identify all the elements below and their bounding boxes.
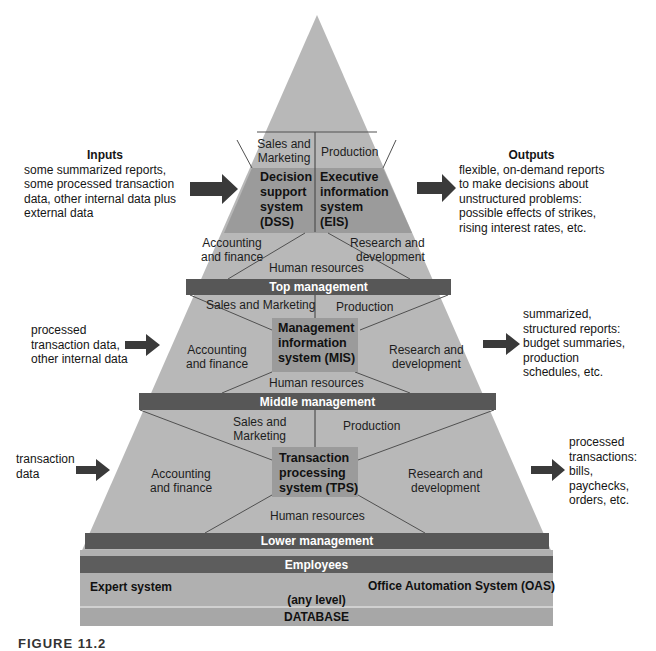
arrow-mid-out (483, 333, 520, 355)
arrow-low-in (76, 459, 110, 481)
figure-caption: FIGURE 11.2 (18, 636, 106, 651)
dss-label: Decision support system (DSS) (260, 170, 312, 230)
mid-inputs: processed transaction data, other intern… (31, 323, 128, 367)
arrow-top-in (190, 174, 238, 204)
eis-label: Executive information system (EIS) (320, 170, 389, 230)
tps-label: Transaction processing system (TPS) (279, 451, 358, 496)
expert-system-label: Expert system (90, 580, 172, 594)
mid-production-label: Production (336, 300, 393, 314)
top-inputs: Inputs some summarized reports, some pro… (24, 148, 186, 221)
top-sales-label: Sales and Marketing (253, 137, 315, 165)
arrow-low-out (531, 459, 565, 481)
arrow-mid-in (125, 334, 160, 356)
oas-label: Office Automation System (OAS) (368, 579, 555, 593)
mid-research-label: Research and development (389, 343, 464, 371)
top-outputs: Outputs flexible, on-demand reports to m… (459, 148, 604, 235)
low-hr-label: Human resources (270, 509, 365, 523)
arrow-top-out (417, 174, 456, 202)
mid-outputs: summarized, structured reports: budget s… (523, 307, 625, 380)
top-management-label: Top management (186, 279, 451, 295)
database-label: DATABASE (80, 610, 553, 624)
top-accounting-label: Accounting and finance (201, 236, 263, 264)
mid-hr-label: Human resources (269, 376, 364, 390)
middle-management-label: Middle management (139, 394, 496, 410)
low-inputs: transaction data (16, 452, 75, 481)
top-hr-label: Human resources (269, 261, 364, 275)
top-production-label: Production (321, 145, 378, 159)
any-level-label: (any level) (80, 593, 553, 607)
mid-sales-label: Sales and Marketing (206, 298, 315, 312)
mis-label: Management information system (MIS) (278, 321, 355, 366)
low-outputs: processed transactions: bills, paychecks… (569, 435, 637, 508)
lower-management-label: Lower management (85, 533, 549, 549)
employees-label: Employees (80, 557, 553, 573)
low-accounting-label: Accounting and finance (150, 467, 212, 495)
top-research-label: Research and development (350, 236, 425, 264)
low-sales-label: Sales and Marketing (233, 415, 286, 443)
low-research-label: Research and development (408, 467, 483, 495)
low-production-label: Production (343, 419, 400, 433)
mid-accounting-label: Accounting and finance (186, 343, 248, 371)
